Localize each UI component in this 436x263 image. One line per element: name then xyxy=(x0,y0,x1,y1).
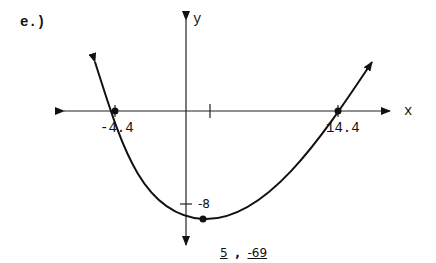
left-root-label: -4.4 xyxy=(100,121,134,135)
right-root-label: 14.4 xyxy=(326,121,360,135)
vertex-point xyxy=(200,216,207,223)
vertex-x: 5 xyxy=(220,246,228,260)
vertex-y: -69 xyxy=(247,246,267,260)
x-axis-label: x xyxy=(404,104,412,118)
y-intercept-label: -8 xyxy=(198,198,210,210)
parabola-graph xyxy=(0,0,436,263)
left-root-point xyxy=(112,108,119,115)
vertex-label: 5 , -69 xyxy=(220,247,267,259)
parabola-curve xyxy=(95,62,372,219)
right-root-point xyxy=(335,108,342,115)
vertex-sep: , xyxy=(235,246,240,260)
y-axis-label: y xyxy=(193,12,201,26)
